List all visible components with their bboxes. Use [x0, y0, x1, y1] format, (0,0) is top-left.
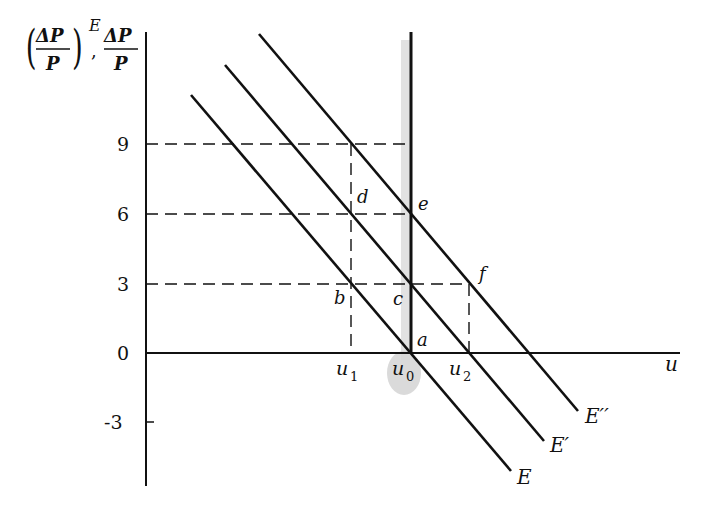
svg-text:,: ,: [91, 40, 97, 61]
curve-E-prime: [225, 65, 544, 441]
y-axis-label: ( ΔP P ) E , ΔP P: [26, 16, 138, 74]
dashed-guides: [146, 144, 469, 353]
svg-text:E′: E′: [549, 433, 570, 457]
svg-text:0: 0: [406, 369, 414, 384]
svg-text:d: d: [357, 186, 369, 207]
svg-text:3: 3: [117, 273, 129, 295]
svg-text:): ): [72, 21, 83, 74]
phillips-curve-diagram: ( ΔP P ) E , ΔP P 9 6 3 0 -3 u 1 u 0 u 2…: [0, 0, 713, 510]
svg-text:6: 6: [117, 203, 129, 225]
curve-labels: E E′ E′′: [516, 404, 609, 489]
svg-text:ΔP: ΔP: [35, 25, 64, 46]
svg-text:b: b: [334, 287, 346, 308]
svg-text:(: (: [26, 21, 37, 74]
svg-text:P: P: [45, 53, 60, 74]
svg-text:u: u: [336, 357, 348, 379]
svg-text:u: u: [392, 357, 404, 379]
svg-text:E: E: [88, 16, 101, 35]
svg-text:9: 9: [117, 133, 129, 155]
svg-text:c: c: [393, 288, 403, 309]
svg-text:u: u: [449, 357, 461, 379]
svg-text:E: E: [516, 465, 532, 489]
svg-text:e: e: [418, 193, 429, 214]
svg-text:a: a: [417, 329, 428, 350]
svg-text:2: 2: [463, 369, 471, 384]
y-tick-labels: 9 6 3 0 -3: [104, 133, 129, 433]
svg-text:f: f: [477, 263, 489, 284]
svg-text:E′′: E′′: [584, 404, 609, 428]
svg-text:0: 0: [117, 342, 129, 364]
curve-E-double-prime: [259, 34, 578, 411]
svg-text:1: 1: [350, 369, 358, 384]
svg-text:P: P: [113, 53, 128, 74]
svg-text:ΔP: ΔP: [103, 25, 132, 46]
svg-text:-3: -3: [104, 411, 123, 433]
x-axis-label: u: [665, 352, 678, 376]
